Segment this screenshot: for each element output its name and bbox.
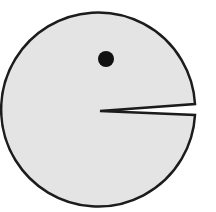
figure-canvas: Pac-Man shaped figure [0,0,216,212]
pacman-figure [0,0,216,212]
pacman-body [1,13,195,207]
pacman-eye [98,51,114,67]
